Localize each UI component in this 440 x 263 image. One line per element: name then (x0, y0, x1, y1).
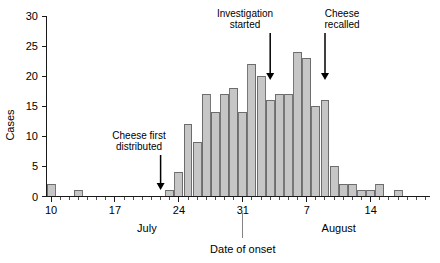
bar-series (47, 52, 402, 196)
y-tick-label: 25 (26, 40, 38, 52)
month-label-august: August (322, 222, 356, 234)
bar (211, 112, 219, 196)
x-axis: 10172431714 (45, 197, 430, 216)
y-tick-label: 0 (32, 191, 38, 203)
bar (202, 94, 210, 196)
bar (193, 142, 201, 196)
y-tick-label: 20 (26, 70, 38, 82)
annotation-cheese-first-distributed: Cheese firstdistributed (112, 130, 166, 190)
y-axis-tick-labels: 051015202530 (26, 10, 38, 203)
bar (248, 64, 256, 196)
x-tick-label: 24 (173, 204, 185, 216)
annotation-label-line2: distributed (116, 141, 162, 152)
bar (221, 94, 229, 196)
x-tick-label: 10 (45, 204, 57, 216)
annotation-arrow-head (266, 73, 274, 80)
x-tick-label: 17 (109, 204, 121, 216)
bar (358, 190, 366, 196)
bar (339, 184, 347, 196)
annotation-arrow-head (157, 183, 165, 190)
bar (175, 172, 183, 196)
bar (367, 190, 375, 196)
bar (239, 112, 247, 196)
bar (166, 190, 174, 196)
y-tick-label: 5 (32, 160, 38, 172)
bar (376, 184, 384, 196)
bar (275, 94, 283, 196)
x-axis-title-group: Date of onset (210, 213, 275, 255)
annotation-label-line1: Cheese first (112, 130, 166, 141)
bar (348, 184, 356, 196)
chart-canvas: Cases 051015202530 10172431714 July Augu… (0, 0, 440, 263)
bar (312, 106, 320, 196)
bar (285, 94, 293, 196)
bar (47, 184, 55, 196)
y-tick-label: 15 (26, 100, 38, 112)
bar (321, 100, 329, 196)
annotation-label-line1: Cheese (325, 8, 360, 19)
bar (230, 88, 238, 196)
month-label-july: July (137, 222, 157, 234)
month-label-group: July August (137, 222, 356, 234)
bar (394, 190, 402, 196)
bar (257, 76, 265, 196)
annotation-label-line1: Investigation (217, 8, 273, 19)
x-tick-label: 7 (304, 204, 310, 216)
y-axis: 051015202530 (26, 10, 47, 203)
epidemic-curve-figure: Cases 051015202530 10172431714 July Augu… (0, 0, 440, 263)
bar (74, 190, 82, 196)
y-tick-label: 10 (26, 130, 38, 142)
annotation-cheese-recalled: Cheeserecalled (321, 8, 360, 80)
y-tick-label: 30 (26, 10, 38, 22)
x-tick-label: 14 (365, 204, 377, 216)
annotation-investigation-started: Investigationstarted (217, 8, 274, 80)
bar (330, 166, 338, 196)
x-axis-ticks (51, 197, 425, 203)
y-axis-ticks (42, 16, 47, 197)
x-axis-title: Date of onset (210, 243, 275, 255)
annotation-label-line2: recalled (324, 19, 359, 30)
bar (294, 52, 302, 196)
annotation-arrow-head (321, 73, 329, 80)
x-axis-tick-labels: 10172431714 (45, 204, 377, 216)
bar (184, 124, 192, 196)
y-axis-title-group: Cases (4, 109, 16, 141)
bar (303, 58, 311, 196)
annotation-label-line2: started (230, 19, 261, 30)
y-axis-title: Cases (4, 109, 16, 141)
bar (266, 100, 274, 196)
